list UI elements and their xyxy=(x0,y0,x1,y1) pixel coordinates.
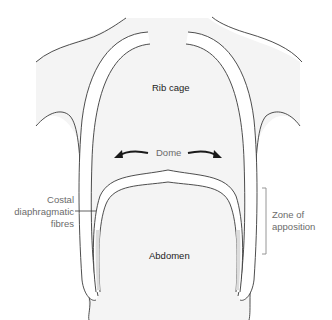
label-zone-line2: apposition xyxy=(272,221,315,233)
label-costal-line1: Costal xyxy=(47,194,74,206)
torso-fill xyxy=(36,18,300,320)
label-zone-line1: Zone of xyxy=(272,209,304,221)
label-rib-cage: Rib cage xyxy=(152,82,190,94)
torso-diagram xyxy=(0,0,332,320)
label-dome: Dome xyxy=(156,147,181,159)
zone-bracket xyxy=(262,188,266,254)
label-abdomen: Abdomen xyxy=(149,250,190,262)
label-costal-line2: diaphragmatic xyxy=(14,206,74,218)
label-costal-line3: fibres xyxy=(51,218,74,230)
